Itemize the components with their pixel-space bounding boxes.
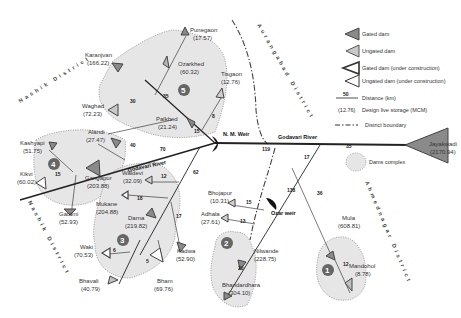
dam-name: Palkhed <box>156 116 178 122</box>
dam-storage: (27.61) <box>201 219 220 225</box>
dam-name: Kashyapi <box>20 140 45 146</box>
dam-storage: (32.09) <box>123 178 142 184</box>
complex-5-badge: 5 <box>181 86 186 95</box>
dam-storage: (72.23) <box>83 111 102 117</box>
aurangabad-district-label: Aurangabad District <box>256 23 316 121</box>
distance-label: 35 <box>163 93 169 99</box>
dam-storage: (2170.94) <box>430 149 456 155</box>
dam-name: Kikvi <box>20 171 33 177</box>
dam-storage: (219.82) <box>125 223 147 229</box>
complex-3-badge: 3 <box>120 236 125 245</box>
dam-storage: (52.90) <box>176 256 195 262</box>
dam-name: Mula <box>342 215 356 221</box>
dam-name: Waldevi <box>122 170 143 176</box>
distance-label: 6 <box>113 247 116 253</box>
legend-label: Design live storage (MCM) <box>362 107 427 113</box>
dam-storage: (60.02) <box>17 179 36 185</box>
distance-label: 20 <box>238 265 244 271</box>
distance-label: 138 <box>287 187 296 193</box>
bhavali-ungated-dam-icon <box>108 276 118 284</box>
dam-storage: (40.79) <box>81 286 100 292</box>
dam-storage: (52.93) <box>59 219 78 225</box>
punegaon-gated-dam-icon <box>181 27 189 35</box>
dam-name: Waki <box>80 244 93 250</box>
dam-name: Bhavali <box>79 278 99 284</box>
dam-name: Bhandardhara <box>222 282 261 288</box>
distance-label: 15 <box>194 128 200 134</box>
dam-name: Waghad <box>82 103 104 109</box>
dam-storage: (51.75) <box>23 148 42 154</box>
dam-network-diagram: N. M. Weir Ozar weir Godavari River Goda… <box>0 0 461 318</box>
dam-storage: (69.76) <box>154 286 173 292</box>
bhojapur-ungated-dam-icon <box>228 199 235 207</box>
dam-name: Jayakwadi <box>429 141 457 147</box>
complex-areas <box>34 30 366 307</box>
dam-storage: (12.76) <box>221 79 240 85</box>
complex-2-badge: 2 <box>224 239 229 248</box>
distance-label: 17 <box>176 213 182 219</box>
dam-storage: (10.31) <box>210 198 229 204</box>
distance-label: 40 <box>130 142 136 148</box>
legend-gated-dam-icon <box>345 28 359 40</box>
dam-storage: (228.75) <box>254 256 276 262</box>
distance-label: 30 <box>130 98 136 104</box>
legend-label: Ungated dam (under construction) <box>362 78 446 84</box>
distance-label: 8 <box>212 113 215 119</box>
legend-distance-sample: 50 <box>343 91 349 97</box>
adhala-ungated-dam-icon <box>221 214 228 222</box>
distance-label: 119 <box>262 146 270 152</box>
ozar-weir-label: Ozar weir <box>271 210 297 216</box>
distance-label: 12 <box>343 261 349 267</box>
dam-storage: (204.88) <box>96 209 118 215</box>
distance-label: 13 <box>240 218 246 224</box>
dam-name: Gautmi <box>59 211 78 217</box>
dam-storage: (17.57) <box>193 35 212 41</box>
dam-name: Darna <box>128 215 145 221</box>
complex-4-badge: 4 <box>51 160 56 169</box>
dam-name: Adhala <box>201 211 220 217</box>
ozar-weir-icon <box>266 198 276 210</box>
dam-storage: (8.78) <box>355 271 371 277</box>
dam-name: Bham <box>157 278 173 284</box>
dam-name: Mandohol <box>349 263 375 269</box>
dam-name: Ozarkhed <box>178 61 204 67</box>
distance-label: 17 <box>304 154 310 160</box>
distance-label: 15 <box>246 199 252 205</box>
dam-storage: (203.88) <box>87 183 109 189</box>
dam-name: Kadwa <box>177 248 196 254</box>
legend-label: District boundary <box>365 122 407 128</box>
distance-label: 15 <box>55 171 61 177</box>
river-label-east: Godavari River <box>278 134 318 140</box>
nm-weir-label: N. M. Weir <box>223 131 250 137</box>
dam-storage: (304.10) <box>228 290 250 296</box>
legend-label: Gated dam (under construction) <box>362 65 440 71</box>
dams-complex-legend-area <box>346 153 366 171</box>
dam-storage: (166.22) <box>87 60 109 66</box>
dam-name: Bhojapur <box>208 190 232 196</box>
legend-label: Distance (km) <box>362 95 396 101</box>
district-boundaries <box>232 20 275 240</box>
distance-label: 62 <box>193 169 199 175</box>
distance-label: 70 <box>160 146 166 152</box>
dam-storage: (608.81) <box>338 223 360 229</box>
legend-ungated-dam-icon <box>346 45 359 57</box>
dam-name: Punegaon <box>190 27 217 33</box>
dam-name: Tisgaon <box>221 71 242 77</box>
legend-label: Dams complex <box>369 159 406 165</box>
distance-label: 18 <box>137 195 143 201</box>
dam-name: Gangapur <box>85 175 112 181</box>
distance-label: 36 <box>317 190 323 196</box>
dam-name: Mukane <box>96 201 118 207</box>
dam-storage: (21.24) <box>158 124 177 130</box>
legend-label: Ungated dam <box>362 48 395 54</box>
legend-gated-uc-icon <box>343 62 359 74</box>
dam-name: Alandi <box>88 129 105 135</box>
distance-label: 35 <box>346 143 352 149</box>
distance-label: 12 <box>161 173 167 179</box>
dam-storage: (60.32) <box>180 69 199 75</box>
nashik-district-label-top: Nashik District <box>17 55 91 104</box>
distance-label: 5 <box>146 258 149 264</box>
legend-storage-sample: (12.76) <box>338 107 356 113</box>
legend-label: Gated dam <box>362 31 390 37</box>
dam-storage: (70.53) <box>74 252 93 258</box>
